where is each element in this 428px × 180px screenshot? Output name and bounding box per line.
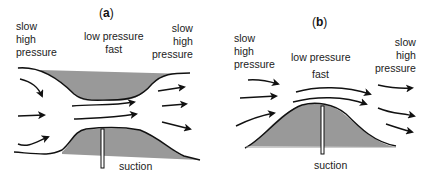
panel-a-suction-tube bbox=[101, 129, 104, 168]
panel-a-upper-wall bbox=[16, 68, 190, 101]
diagram-canvas bbox=[0, 0, 428, 180]
panel-a-lower-wall bbox=[14, 128, 200, 160]
panel-b-suction-tube bbox=[321, 106, 324, 154]
